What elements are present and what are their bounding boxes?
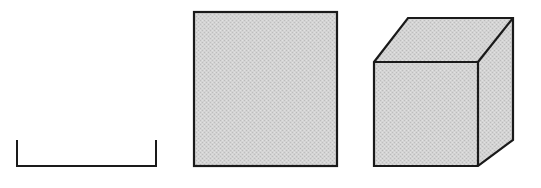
square-shape [194, 12, 337, 166]
cube-shape [374, 18, 513, 166]
cube-front-face-fill [374, 62, 478, 166]
figure-canvas [0, 0, 541, 188]
figure-svg [0, 0, 541, 188]
square-fill [194, 12, 337, 166]
